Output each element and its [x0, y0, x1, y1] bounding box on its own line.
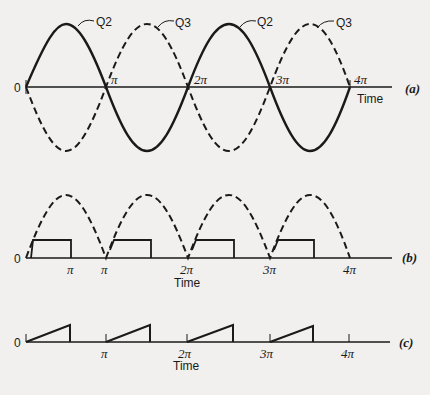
q2-leader-arrow [78, 20, 94, 26]
panel-b: 0 π π 2π 3π 4π Time (b) [14, 195, 417, 290]
panel-c-tick-4pi: 4π [341, 346, 355, 361]
ramp-2 [106, 325, 150, 342]
q2-label-2: Q2 [257, 15, 273, 29]
ramp-3 [187, 325, 233, 342]
panel-a-label: (a) [405, 81, 420, 96]
ramp-4 [270, 326, 313, 342]
ramp-1 [26, 325, 70, 342]
panel-a-tick-4pi: 4π [354, 72, 368, 87]
pulse-4 [274, 240, 314, 258]
q3-leader-arrow [158, 21, 174, 27]
panel-b-tick-pi-a: π [67, 262, 74, 277]
panel-a-axis-label: Time [357, 92, 384, 106]
panel-a-origin-label: 0 [14, 81, 21, 95]
q3-leader-arrow-2 [317, 21, 334, 28]
pulse-3 [192, 240, 234, 258]
panel-b-tick-2pi: 2π [180, 262, 194, 277]
panel-b-tick-pi-b: π [101, 262, 108, 277]
panel-b-label: (b) [402, 250, 417, 265]
q2-leader-arrow-2 [240, 21, 256, 27]
panel-a: Q2 Q3 Q2 Q3 0 π 2π 3π 4π Time (a) [14, 15, 420, 151]
pulse-1 [31, 240, 71, 258]
panel-c: 0 π 2π 3π 4π Time (c) [14, 325, 413, 373]
q3-label-2: Q3 [336, 16, 352, 30]
panel-a-tick-2pi: 2π [194, 72, 208, 87]
panel-a-tick-3pi: 3π [275, 72, 290, 87]
panel-b-axis-label: Time [174, 276, 201, 290]
panel-c-label: (c) [399, 335, 413, 350]
panel-b-tick-4pi: 4π [343, 262, 357, 277]
panel-b-tick-3pi: 3π [262, 262, 277, 277]
panel-c-origin-label: 0 [14, 336, 21, 350]
panel-c-axis-label: Time [173, 359, 200, 373]
panel-a-tick-pi: π [111, 72, 118, 87]
panel-b-origin-label: 0 [14, 252, 21, 266]
q2-label: Q2 [96, 15, 112, 29]
waveform-diagram: Q2 Q3 Q2 Q3 0 π 2π 3π 4π Time (a) 0 π π … [0, 0, 430, 395]
pulse-2 [110, 240, 151, 258]
q3-label: Q3 [175, 16, 191, 30]
rectified-dashed-arches [26, 195, 350, 258]
panel-c-tick-3pi: 3π [259, 346, 274, 361]
panel-c-tick-pi: π [101, 346, 108, 361]
